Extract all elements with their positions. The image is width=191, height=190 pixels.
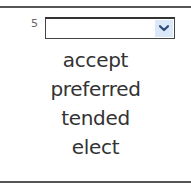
word-option: tended — [0, 104, 191, 133]
word-options-list: accept preferred tended elect — [0, 46, 191, 162]
chevron-down-icon — [159, 25, 169, 32]
word-option: elect — [0, 133, 191, 162]
question-number: 5 — [31, 17, 38, 31]
word-option: preferred — [0, 75, 191, 104]
dropdown-arrow-button[interactable] — [155, 20, 173, 37]
answer-dropdown[interactable] — [45, 17, 175, 39]
question-panel: 5 accept preferred tended elect — [0, 0, 191, 190]
bottom-divider — [0, 181, 191, 183]
word-option: accept — [0, 46, 191, 75]
top-divider — [0, 6, 191, 8]
